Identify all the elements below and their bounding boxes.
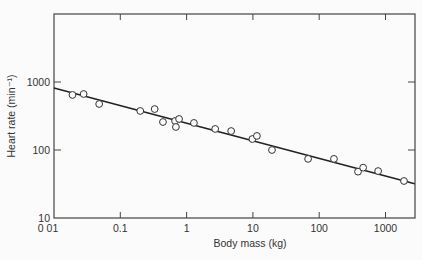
data-point [80, 91, 87, 98]
x-tick-label: 10 [247, 222, 259, 234]
data-point [331, 155, 338, 162]
x-axis-title: Body mass (kg) [214, 237, 287, 249]
data-point [212, 126, 219, 133]
x-tick-label: 100 [310, 222, 328, 234]
chart: 0 010.11101001000 101001000 Body mass (k… [0, 0, 422, 260]
data-point [375, 168, 382, 175]
y-axis-title: Heart rate (min⁻¹) [5, 74, 17, 157]
data-point [151, 106, 158, 113]
data-point [173, 124, 180, 131]
plot-frame [54, 14, 415, 218]
data-point [96, 101, 103, 108]
data-point [269, 147, 276, 154]
x-axis-ticks: 0 010.11101001000 [38, 14, 398, 234]
data-point [401, 178, 408, 185]
data-point [191, 120, 198, 127]
data-point [69, 92, 76, 99]
y-tick-label: 100 [32, 144, 50, 156]
x-tick-label: 1 [184, 222, 190, 234]
data-point [176, 116, 183, 123]
data-point [305, 155, 312, 162]
y-tick-label: 10 [38, 212, 50, 224]
y-tick-label: 1000 [27, 76, 51, 88]
y-axis-ticks: 101001000 [27, 76, 415, 224]
data-point [228, 128, 235, 135]
data-point [360, 164, 367, 171]
data-point [254, 133, 261, 140]
data-point [137, 108, 144, 115]
x-tick-label: 0.1 [113, 222, 128, 234]
x-tick-label: 1000 [374, 222, 398, 234]
data-point [160, 119, 167, 126]
